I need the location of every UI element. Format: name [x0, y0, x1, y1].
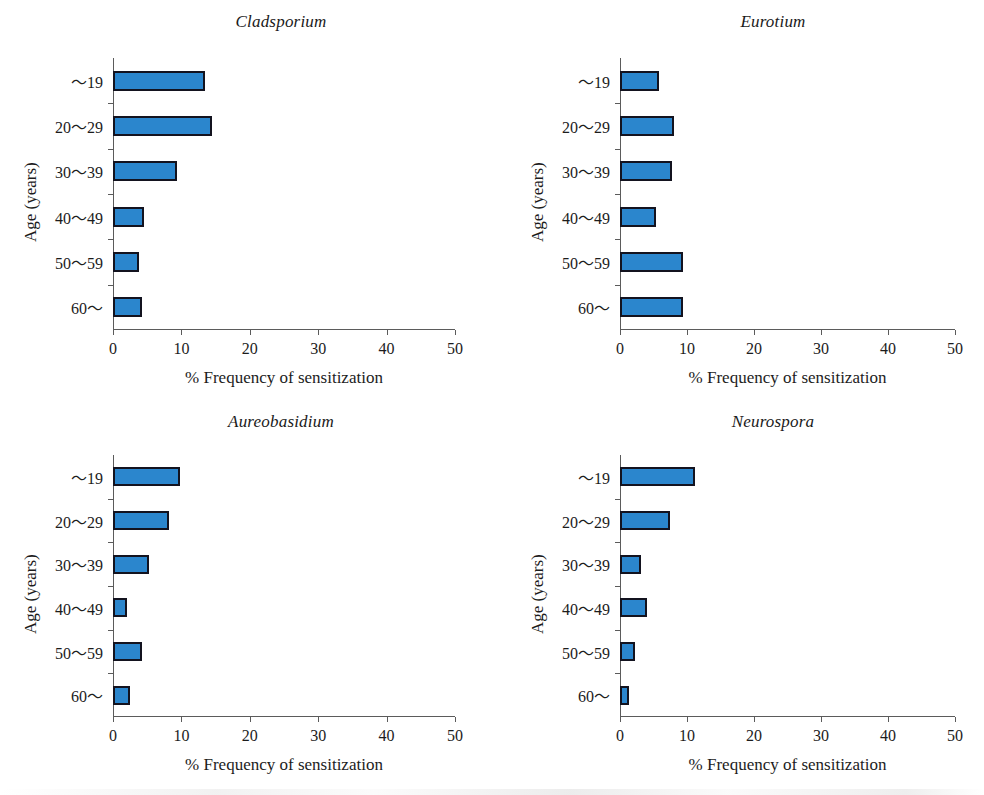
- x-axis-line: [113, 716, 455, 717]
- bar: [113, 161, 177, 181]
- bar: [620, 642, 635, 661]
- x-tick: [754, 717, 755, 722]
- bar: [620, 116, 674, 136]
- x-axis-line: [620, 329, 955, 330]
- x-axis-line: [620, 716, 955, 717]
- plot-area: 01020304050〜1920〜2930〜3940〜4950〜5960〜: [620, 58, 955, 330]
- bar: [620, 598, 647, 617]
- x-tick-label: 50: [447, 340, 463, 358]
- y-tick-label: 60〜: [578, 683, 610, 707]
- x-tick-label: 50: [947, 340, 963, 358]
- x-tick-label: 40: [379, 727, 395, 745]
- x-tick: [821, 717, 822, 722]
- x-tick-label: 10: [679, 727, 695, 745]
- y-tick-label: 60〜: [71, 295, 103, 319]
- y-tick: [615, 586, 620, 587]
- y-tick-label: 40〜49: [562, 596, 610, 620]
- bar: [113, 116, 212, 136]
- bar: [620, 555, 641, 574]
- bar: [113, 686, 130, 705]
- y-tick-label: 30〜39: [55, 552, 103, 576]
- bar: [113, 555, 149, 574]
- y-tick: [615, 149, 620, 150]
- x-tick-label: 20: [242, 340, 258, 358]
- bar: [620, 686, 629, 705]
- bar: [113, 511, 169, 530]
- x-tick-label: 40: [880, 340, 896, 358]
- bar: [620, 467, 695, 486]
- y-tick-label: 60〜: [578, 295, 610, 319]
- panel-cladsporium: Cladsporium01020304050〜1920〜2930〜3940〜49…: [0, 0, 492, 400]
- x-tick: [455, 330, 456, 335]
- y-tick-label: 〜19: [71, 69, 103, 93]
- x-axis-label: % Frequency of sensitization: [185, 755, 383, 775]
- panel-neurospora: Neurospora01020304050〜1920〜2930〜3940〜495…: [492, 400, 984, 795]
- bar: [113, 252, 139, 272]
- x-tick: [687, 330, 688, 335]
- plot-area: 01020304050〜1920〜2930〜3940〜4950〜5960〜: [113, 455, 455, 717]
- bar: [620, 71, 659, 91]
- panel-title: Aureobasidium: [0, 412, 492, 432]
- x-tick: [888, 717, 889, 722]
- x-tick: [754, 330, 755, 335]
- y-tick-label: 40〜49: [55, 596, 103, 620]
- y-tick: [108, 499, 113, 500]
- y-axis-line: [113, 455, 114, 717]
- y-tick: [108, 285, 113, 286]
- y-tick: [108, 194, 113, 195]
- y-tick-label: 30〜39: [562, 552, 610, 576]
- y-tick: [108, 103, 113, 104]
- bar: [113, 207, 144, 227]
- x-tick: [250, 717, 251, 722]
- y-tick: [108, 673, 113, 674]
- x-tick-label: 0: [109, 727, 117, 745]
- y-tick-label: 50〜59: [562, 640, 610, 664]
- x-tick: [387, 330, 388, 335]
- x-axis-label: % Frequency of sensitization: [185, 368, 383, 388]
- panel-title: Neurospora: [492, 412, 984, 432]
- y-tick: [615, 673, 620, 674]
- x-tick: [455, 717, 456, 722]
- y-tick-label: 40〜49: [55, 205, 103, 229]
- x-tick-label: 50: [947, 727, 963, 745]
- y-axis-line: [113, 58, 114, 330]
- y-tick-label: 〜19: [578, 69, 610, 93]
- y-tick: [108, 586, 113, 587]
- x-tick-label: 0: [109, 340, 117, 358]
- y-axis-label: Age (years): [528, 554, 548, 634]
- y-tick-label: 〜19: [71, 465, 103, 489]
- y-tick: [108, 542, 113, 543]
- x-tick-label: 10: [173, 340, 189, 358]
- x-tick-label: 20: [242, 727, 258, 745]
- y-tick-label: 50〜59: [55, 250, 103, 274]
- x-tick-label: 10: [679, 340, 695, 358]
- y-tick: [615, 499, 620, 500]
- y-tick-label: 60〜: [71, 683, 103, 707]
- x-tick-label: 0: [616, 727, 624, 745]
- x-tick: [387, 717, 388, 722]
- x-tick-label: 30: [813, 727, 829, 745]
- bar: [620, 161, 672, 181]
- x-tick-label: 10: [173, 727, 189, 745]
- plot-area: 01020304050〜1920〜2930〜3940〜4950〜5960〜: [113, 58, 455, 330]
- plot-area: 01020304050〜1920〜2930〜3940〜4950〜5960〜: [620, 455, 955, 717]
- x-tick: [181, 717, 182, 722]
- x-axis-line: [113, 329, 455, 330]
- y-tick: [108, 149, 113, 150]
- x-tick-label: 30: [310, 340, 326, 358]
- y-tick: [615, 103, 620, 104]
- y-tick-label: 20〜29: [55, 114, 103, 138]
- x-tick: [620, 330, 621, 335]
- panel-aureobasidium: Aureobasidium01020304050〜1920〜2930〜3940〜…: [0, 400, 492, 795]
- y-tick: [108, 630, 113, 631]
- x-tick: [955, 330, 956, 335]
- panel-eurotium: Eurotium01020304050〜1920〜2930〜3940〜4950〜…: [492, 0, 984, 400]
- x-tick: [955, 717, 956, 722]
- y-axis-label: Age (years): [21, 554, 41, 634]
- bar: [620, 511, 670, 530]
- y-tick-label: 50〜59: [562, 250, 610, 274]
- x-tick-label: 30: [310, 727, 326, 745]
- y-tick-label: 20〜29: [562, 114, 610, 138]
- bar: [113, 71, 205, 91]
- bar: [620, 252, 683, 272]
